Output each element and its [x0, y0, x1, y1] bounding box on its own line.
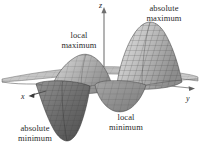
peak-absolute-maximum [117, 22, 182, 89]
label-local-maximum: local maximum [47, 31, 111, 50]
axis-y-label: y [186, 94, 190, 103]
valley-local-minimum [95, 81, 146, 112]
axis-x-label: x [21, 92, 25, 101]
label-absolute-maximum: absolute maximum [129, 4, 199, 23]
axis-z-label: z [99, 1, 102, 10]
label-local-minimum: local minimum [96, 113, 156, 132]
label-absolute-minimum: absolute minimum [2, 124, 68, 143]
